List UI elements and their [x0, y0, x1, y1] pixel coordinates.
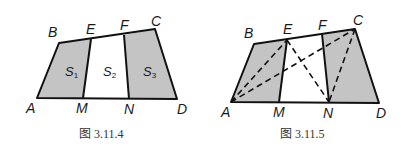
label-n: N: [323, 105, 334, 121]
region-label-s2: S2: [103, 64, 117, 80]
label-b: B: [48, 24, 57, 40]
label-n: N: [124, 101, 135, 117]
label-e: E: [86, 21, 96, 37]
label-a: A: [220, 104, 230, 120]
label-d: D: [376, 105, 386, 121]
label-m: M: [273, 104, 285, 120]
diagram-canvas: A B E F C D M N S1 S2 S3 图 3.11.4 A B E …: [0, 0, 401, 155]
label-c: C: [353, 12, 364, 28]
caption-3-11-5: 图 3.11.5: [280, 127, 325, 141]
caption-3-11-4: 图 3.11.4: [79, 127, 124, 141]
figure-3-11-4: A B E F C D M N S1 S2 S3 图 3.11.4: [25, 13, 187, 141]
region-s1: [37, 39, 91, 98]
label-c: C: [151, 13, 162, 29]
label-m: M: [76, 100, 88, 116]
label-e: E: [283, 21, 293, 37]
figure-3-11-5: A B E F C D M N 图 3.11.5: [220, 12, 386, 141]
label-f: F: [120, 17, 130, 33]
label-f: F: [318, 17, 328, 33]
label-d: D: [177, 101, 187, 117]
label-a: A: [25, 100, 35, 116]
label-b: B: [244, 25, 253, 41]
